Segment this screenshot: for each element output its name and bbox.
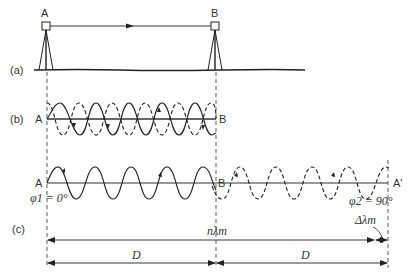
station-b-label: B [211, 7, 218, 19]
wave-arrow-icon [331, 172, 335, 177]
dimensions: nλm Δλm D D [48, 213, 387, 263]
d-left-label: D [131, 248, 141, 262]
ground-line [34, 70, 305, 71]
n-lambda-label: nλm [207, 224, 227, 238]
station-b-instrument: B [208, 7, 222, 70]
delta-lambda-label: Δλm [354, 213, 376, 227]
panel-c-station-a: A [35, 177, 43, 189]
station-a-label: A [41, 7, 49, 19]
delta-lambda-leader [373, 227, 382, 238]
phase-2-label: φ2 = 90° [349, 194, 393, 208]
instrument-box-icon [42, 22, 50, 30]
panel-c-label: (c) [12, 223, 25, 235]
station-a-instrument: A [39, 7, 53, 70]
distance-measurement-diagram: (a) A B (b) A B [0, 0, 417, 280]
panel-b-label: (b) [10, 113, 23, 125]
d-right-label: D [300, 248, 310, 262]
panel-b-station-a: A [35, 113, 43, 125]
panel-c-station-a-prime: A' [393, 177, 402, 189]
panel-a: (a) A B [10, 7, 305, 76]
phase-1-label: φ1 = 0° [30, 191, 68, 205]
reflector-box-icon [211, 22, 219, 30]
wave-arrow-icon [201, 125, 205, 130]
signal-direction-arrow-icon [126, 24, 134, 29]
panel-b: (b) A B [10, 103, 226, 135]
panel-a-label: (a) [10, 64, 23, 76]
panel-b-station-b: B [219, 113, 226, 125]
guide-lines [47, 72, 388, 268]
